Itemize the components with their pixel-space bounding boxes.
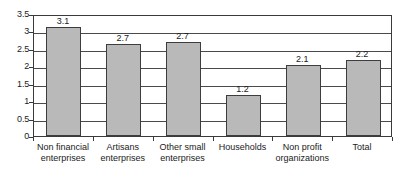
- x-axis-category-label: Total: [325, 142, 399, 153]
- x-axis-category-label-line: Total: [325, 142, 399, 153]
- y-axis-tick-label: 1: [3, 97, 29, 106]
- x-axis-tick-mark: [332, 137, 333, 141]
- gridline: [34, 121, 391, 122]
- bar: [46, 27, 81, 136]
- gridline: [34, 33, 391, 34]
- bar-value-label: 2.1: [282, 55, 322, 64]
- bar-value-label: 2.7: [103, 34, 143, 43]
- y-axis-tick-label: 1.5: [3, 80, 29, 89]
- x-axis-tick-mark: [213, 137, 214, 141]
- plot-area: [33, 15, 392, 137]
- bar: [106, 44, 141, 136]
- y-axis-tick-label: 2: [3, 62, 29, 71]
- gridline: [34, 86, 391, 87]
- gridline: [34, 103, 391, 104]
- x-axis-tick-mark: [33, 137, 34, 141]
- x-axis-tick-mark: [392, 137, 393, 141]
- y-axis-tick-label: 3: [3, 27, 29, 36]
- x-axis-tick-mark: [272, 137, 273, 141]
- y-axis-tick-label: 3.5: [3, 10, 29, 19]
- x-axis-category-label-line: organizations: [265, 153, 339, 164]
- bar-value-label: 1.2: [222, 85, 262, 94]
- bar-chart: 00.511.522.533.5 3.12.72.71.22.12.2 Non …: [0, 0, 405, 178]
- bar: [166, 42, 201, 136]
- gridline: [34, 51, 391, 52]
- y-axis-labels: 00.511.522.533.5: [0, 0, 29, 178]
- y-axis-tick-label: 2.5: [3, 45, 29, 54]
- x-axis-tick-mark: [153, 137, 154, 141]
- bar-value-label: 2.7: [163, 32, 203, 41]
- bar: [286, 65, 321, 136]
- bar: [226, 95, 261, 136]
- y-axis-tick-label: 0: [3, 132, 29, 141]
- x-axis-tick-mark: [93, 137, 94, 141]
- y-axis-tick-label: 0.5: [3, 115, 29, 124]
- bar-value-label: 3.1: [43, 17, 83, 26]
- bar: [346, 60, 381, 136]
- gridline: [34, 68, 391, 69]
- x-axis-category-label-line: enterprises: [146, 153, 220, 164]
- bar-value-label: 2.2: [342, 50, 382, 59]
